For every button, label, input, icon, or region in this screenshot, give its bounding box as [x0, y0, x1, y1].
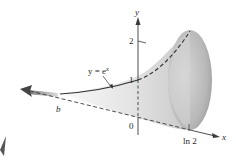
origin-label: 0 — [129, 121, 134, 131]
cropped-edge-shape — [0, 136, 6, 156]
b-label: b — [56, 104, 61, 114]
y-axis-arrowhead-icon — [136, 17, 141, 25]
y-tick-2 — [138, 41, 146, 43]
x-axis-arrowhead-icon — [212, 133, 220, 138]
ln2-label: ln 2 — [183, 136, 197, 146]
solid-of-revolution-diagram: y 2 1 0 x ln 2 b y = ex — [0, 0, 236, 162]
y-tick-label-2: 2 — [129, 36, 134, 46]
x-axis-label: x — [221, 132, 226, 142]
curve-label: y = ex — [88, 65, 109, 76]
curve-label-base: y = e — [88, 66, 106, 76]
y-axis-label: y — [134, 7, 139, 17]
curve-label-exponent: x — [105, 65, 109, 72]
tail-arrow-shape — [28, 90, 58, 97]
y-tick-label-1: 1 — [129, 75, 134, 85]
